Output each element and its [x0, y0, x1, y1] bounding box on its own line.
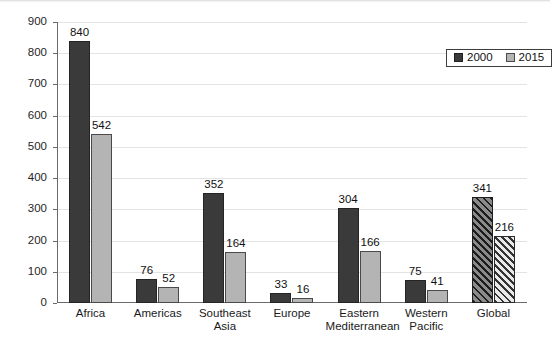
bar-2000: 341: [472, 197, 493, 303]
y-axis-tick: [53, 22, 57, 23]
bar-2015: 542: [91, 134, 112, 303]
legend-item-2000: 2000: [454, 52, 493, 64]
chart-legend: 2000 2015: [446, 49, 552, 67]
bar-2000: 352: [203, 193, 224, 303]
x-axis-label: Eastern Mediterranean: [326, 307, 393, 333]
gridline: [57, 116, 527, 117]
plot-area: 840542765235216433163041667541341216 200…: [57, 22, 527, 303]
gridline: [57, 178, 527, 179]
bar-2000: 33: [270, 293, 291, 303]
gridline: [57, 241, 527, 242]
y-axis-tick: [53, 303, 57, 304]
x-axis-label: Africa: [57, 307, 124, 320]
y-axis-tick-label: 600: [0, 110, 47, 122]
bar-value-label: 304: [339, 194, 358, 206]
bar-group: 840542: [57, 41, 124, 303]
legend-item-2015: 2015: [506, 52, 545, 64]
bar-2000: 75: [405, 280, 426, 303]
x-axis-label: Americas: [124, 307, 191, 320]
gridline: [57, 209, 527, 210]
y-axis-tick-label: 800: [0, 47, 47, 59]
bar-2015: 164: [225, 252, 246, 303]
bar-group: 7541: [393, 280, 460, 303]
y-axis-tick-label: 500: [0, 141, 47, 153]
bar-group: 3316: [258, 293, 325, 303]
bar-value-label: 33: [275, 279, 288, 291]
bar-group: 352164: [191, 193, 258, 303]
legend-label-2000: 2000: [467, 52, 493, 64]
bar-2000: 76: [136, 279, 157, 303]
scan-edge: [0, 0, 550, 3]
gridline: [57, 272, 527, 273]
bar-group: 304166: [326, 208, 393, 303]
y-axis-tick-label: 400: [0, 172, 47, 184]
bar-2015: 16: [292, 298, 313, 303]
bar-value-label: 352: [204, 179, 223, 191]
bar-2000: 840: [69, 41, 90, 303]
gridline: [57, 84, 527, 85]
x-axis-label: Global: [460, 307, 527, 320]
light-square-swatch: [506, 53, 515, 62]
bar-2015: 166: [360, 251, 381, 303]
y-axis-tick-label: 700: [0, 78, 47, 90]
legend-label-2015: 2015: [519, 52, 545, 64]
x-axis-label: Western Pacific: [393, 307, 460, 333]
bar-value-label: 166: [361, 237, 380, 249]
bar-group: 341216: [460, 197, 527, 303]
bar-value-label: 216: [495, 222, 514, 234]
x-axis-label: Southeast Asia: [191, 307, 258, 333]
y-axis-tick-label: 100: [0, 266, 47, 278]
bar-value-label: 164: [226, 238, 245, 250]
bar-value-label: 542: [92, 120, 111, 132]
bar-value-label: 52: [162, 273, 175, 285]
bar-value-label: 16: [297, 284, 310, 296]
bar-group: 7652: [124, 279, 191, 303]
y-axis-tick-label: 200: [0, 235, 47, 247]
bar-value-label: 341: [473, 183, 492, 195]
bar-2015: 41: [427, 290, 448, 303]
bar-value-label: 75: [409, 266, 422, 278]
bar-value-label: 76: [140, 265, 153, 277]
bar-2015: 216: [494, 236, 515, 303]
gridline: [57, 147, 527, 148]
bar-value-label: 41: [431, 276, 444, 288]
y-axis-tick-label: 900: [0, 16, 47, 28]
dark-square-swatch: [454, 53, 463, 62]
bar-2015: 52: [158, 287, 179, 303]
gridline: [57, 22, 527, 23]
bar-value-label: 840: [70, 27, 89, 39]
y-axis-tick-label: 0: [0, 297, 47, 309]
y-axis-tick-label: 300: [0, 203, 47, 215]
bar-2000: 304: [338, 208, 359, 303]
x-axis-label: Europe: [258, 307, 325, 320]
